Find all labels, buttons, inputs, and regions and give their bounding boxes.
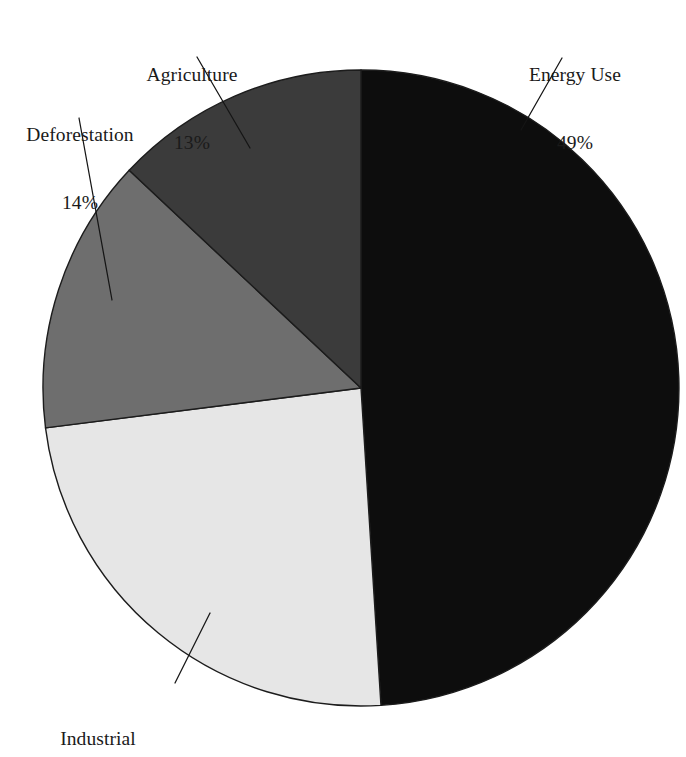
pie-chart-figure: Agriculture 13% Energy Use 49% Deforesta…: [0, 0, 686, 757]
slice-label-industrial-production-name-1: Industrial: [22, 728, 174, 751]
pie-slice-industrial-production[interactable]: [46, 388, 381, 706]
slice-label-industrial-production: Industrial Production 24%: [22, 682, 174, 757]
slice-label-deforestation-name: Deforestation: [6, 124, 154, 147]
slice-label-deforestation: Deforestation 14%: [6, 78, 154, 261]
slice-label-energy-use: Energy Use 49%: [500, 18, 650, 201]
slice-label-energy-use-name: Energy Use: [500, 64, 650, 87]
slice-label-energy-use-percent: 49%: [500, 132, 650, 155]
slice-label-deforestation-percent: 14%: [6, 192, 154, 215]
